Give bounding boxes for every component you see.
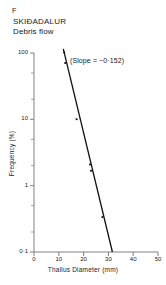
chart-svg (0, 0, 166, 285)
ytick-label-0-1: 0·1 (6, 248, 28, 254)
xtick-label-50: 50 (150, 256, 166, 262)
data-point (76, 118, 78, 120)
xtick-label-30: 30 (100, 256, 116, 262)
x-axis-label: Thallus Diameter (mm) (0, 266, 166, 273)
slope-annotation: (Slope = −0·152) (70, 57, 124, 64)
y-axis-label: Frequency (%) (8, 119, 15, 189)
xtick-label-0: 0 (26, 256, 42, 262)
xtick-label-20: 20 (76, 256, 92, 262)
data-point (63, 52, 65, 54)
chart-plot-area: 100 10 1 0·1 0 10 20 30 40 50 (Slope = −… (0, 0, 166, 285)
xtick-label-40: 40 (125, 256, 141, 262)
data-point (102, 216, 104, 218)
data-point (64, 62, 66, 64)
data-point (89, 164, 91, 166)
y-major-ticks (30, 53, 34, 252)
xtick-label-10: 10 (51, 256, 67, 262)
fit-line (63, 49, 112, 252)
ytick-label-100: 100 (8, 49, 28, 55)
data-point (90, 170, 92, 172)
